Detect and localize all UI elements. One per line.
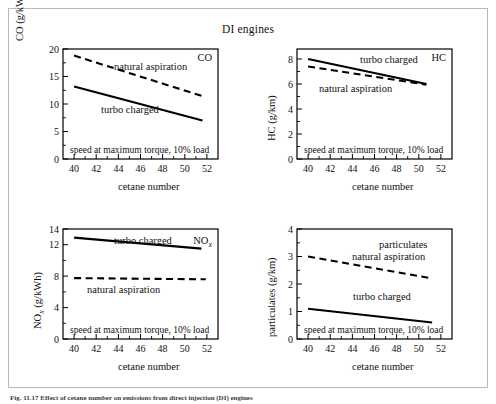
annotation-hc-natural-aspiration: natural aspiration [319,83,393,94]
xtick-part-44: 44 [347,343,357,354]
xtick-hc-40: 40 [303,163,313,174]
xtick-nox-48: 48 [158,343,168,354]
annotation-co-turbo-charged: turbo charged [101,104,160,115]
ylabel-nox: NOx (g/kWh) [32,272,46,329]
figure-frame: DI engines 0 5 10 15 20 [8,8,488,388]
chart-particulates: 0 1 2 3 4 40 42 [257,221,477,381]
ytick-hc-0: 0 [288,154,293,165]
ytick-co-5: 5 [54,126,59,137]
ylabel-hc: HC (g/km) [266,95,278,141]
ytick-nox-12: 12 [49,239,59,250]
xtick-co-48: 48 [158,163,168,174]
annotation-part-turbo-charged: turbo charged [353,291,412,302]
xtick-part-50: 50 [414,343,424,354]
ytick-hc-6: 6 [288,79,293,90]
annotation-hc-turbo-charged: turbo charged [360,54,419,65]
ytick-co-15: 15 [49,71,59,82]
ytick-part-3: 3 [288,251,293,262]
ytick-hc-8: 8 [288,54,293,65]
figure-title: DI engines [9,23,487,35]
ylabel-co: CO (g/kWh) [14,0,26,41]
ytick-part-2: 2 [288,279,293,290]
xtick-part-42: 42 [325,343,335,354]
ytick-nox-0: 0 [54,334,59,345]
annotation-part-particulates: particulates [379,239,427,250]
xtick-co-50: 50 [180,163,190,174]
xtick-co-40: 40 [69,163,79,174]
chart-nox: 0 4 8 12 14 40 42 [23,221,243,381]
corner-label-co: CO [197,52,212,63]
xtick-hc-44: 44 [347,163,357,174]
xtick-co-52: 52 [202,163,212,174]
xtick-co-46: 46 [136,163,146,174]
panel-co: 0 5 10 15 20 40 [23,41,243,201]
xtick-nox-44: 44 [113,343,123,354]
xtick-co-44: 44 [113,163,123,174]
xlabel-particulates: cetane number [352,361,414,372]
xtick-part-40: 40 [303,343,313,354]
xlabel-nox: cetane number [118,361,180,372]
figure-caption: Fig. 11.17 Effect of cetane number on em… [10,394,480,403]
note-hc: speed at maximum torque, 10% load [304,145,444,155]
plot-area-hc [297,49,452,159]
xtick-part-52: 52 [436,343,446,354]
xtick-hc-46: 46 [370,163,380,174]
xlabel-co: cetane number [118,181,180,192]
xtick-hc-50: 50 [414,163,424,174]
note-nox: speed at maximum torque, 10% load [70,325,210,335]
annotation-co-natural-aspiration: natural aspiration [114,61,188,72]
ytick-nox-4: 4 [54,302,59,313]
ytick-hc-2: 2 [288,129,293,140]
xtick-hc-52: 52 [436,163,446,174]
ytick-co-10: 10 [49,99,59,110]
note-co: speed at maximum torque, 10% load [70,145,210,155]
ytick-hc-4: 4 [288,104,293,115]
note-particulates: speed at maximum torque, 10% load [304,325,444,335]
ytick-part-0: 0 [288,334,293,345]
chart-co: 0 5 10 15 20 40 [23,41,243,201]
annotation-part-natural-aspiration: natural aspiration [352,251,426,262]
xtick-co-42: 42 [91,163,101,174]
ytick-nox-14: 14 [49,224,59,235]
ylabel-particulates: particulates (g/km) [266,257,278,337]
xlabel-hc: cetane number [352,181,414,192]
xtick-hc-42: 42 [325,163,335,174]
chart-hc: 0 2 4 6 8 40 42 [257,41,477,201]
corner-label-hc: HC [431,52,446,63]
ytick-co-20: 20 [49,44,59,55]
annotation-nox-turbo-charged: turbo charged [114,235,173,246]
xtick-nox-46: 46 [136,343,146,354]
ytick-part-4: 4 [288,224,293,235]
ytick-co-0: 0 [54,154,59,165]
panel-particulates: 0 1 2 3 4 40 42 [257,221,477,381]
xtick-part-48: 48 [392,343,402,354]
ytick-part-1: 1 [288,306,293,317]
xtick-nox-52: 52 [202,343,212,354]
ytick-nox-8: 8 [54,271,59,282]
xtick-nox-40: 40 [69,343,79,354]
xtick-nox-42: 42 [91,343,101,354]
panel-nox: 0 4 8 12 14 40 42 [23,221,243,381]
panel-hc: 0 2 4 6 8 40 42 [257,41,477,201]
annotation-nox-natural-aspiration: natural aspiration [87,284,161,295]
xtick-part-46: 46 [370,343,380,354]
xtick-nox-50: 50 [180,343,190,354]
xtick-hc-48: 48 [392,163,402,174]
